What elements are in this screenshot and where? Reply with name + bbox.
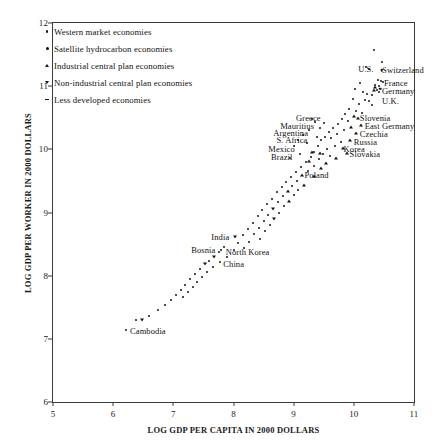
scatter-point xyxy=(278,212,280,214)
scatter-point xyxy=(218,251,220,253)
scatter-point xyxy=(318,152,322,155)
scatter-point xyxy=(380,80,382,82)
scatter-point xyxy=(317,145,319,147)
scatter-point xyxy=(199,268,201,270)
scatter-point xyxy=(283,205,285,207)
scatter-point xyxy=(310,150,314,153)
scatter-point xyxy=(323,122,325,124)
scatter-point xyxy=(348,108,350,110)
scatter-point xyxy=(352,115,356,118)
scatter-point xyxy=(180,289,182,291)
scatter-point xyxy=(285,181,287,183)
point-label: Poland xyxy=(304,170,328,179)
scatter-point xyxy=(334,145,336,147)
scatter-point xyxy=(297,189,299,191)
scatter-point xyxy=(267,214,269,216)
scatter-point xyxy=(330,137,332,139)
scatter-point xyxy=(237,242,239,244)
y-axis-title: LOG GDP PER WORKER IN 2000 DOLLARS xyxy=(23,78,33,328)
scatter-point xyxy=(313,151,315,153)
scatter-point xyxy=(337,123,339,125)
scatter-point xyxy=(344,113,346,115)
legend-item: Western market economies xyxy=(40,23,270,40)
scatter-point xyxy=(261,209,263,211)
scatter-point xyxy=(259,238,261,240)
chart-root: LOG GDP PER WORKER IN 2000 DOLLARS U.S.S… xyxy=(0,0,436,447)
scatter-point xyxy=(125,329,127,331)
scatter-point xyxy=(272,217,276,220)
scatter-point xyxy=(300,166,302,168)
scatter-point xyxy=(212,266,214,268)
scatter-point xyxy=(366,93,368,95)
scatter-point xyxy=(364,99,366,101)
scatter-point xyxy=(320,139,322,141)
scatter-point xyxy=(248,241,250,243)
x-axis-tick-mark xyxy=(233,402,234,406)
scatter-point xyxy=(295,171,297,173)
scatter-point xyxy=(343,129,345,131)
scatter-point xyxy=(192,286,194,288)
legend-item-label: Non-industrial central plan economies xyxy=(54,78,192,88)
legend-item: Satellite hydrocarbon economies xyxy=(40,40,270,57)
scatter-point xyxy=(376,89,378,91)
scatter-point xyxy=(373,86,377,89)
scatter-point xyxy=(354,88,356,90)
scatter-point xyxy=(220,249,222,251)
scatter-point xyxy=(328,131,330,133)
x-axis-tick-mark xyxy=(113,402,114,406)
legend-marker-icon xyxy=(40,42,54,56)
scatter-point xyxy=(290,176,292,178)
point-label: Slovakia xyxy=(350,150,381,159)
legend-item-label: Less developed economies xyxy=(54,95,151,105)
scatter-point xyxy=(252,222,254,224)
scatter-point xyxy=(332,127,334,129)
legend: Western market economiesSatellite hydroc… xyxy=(40,23,270,108)
point-label: Switzerland xyxy=(382,66,424,75)
scatter-point xyxy=(359,82,361,84)
scatter-point xyxy=(203,263,207,266)
scatter-point xyxy=(263,220,265,222)
x-axis-tick-mark xyxy=(353,402,354,406)
scatter-point xyxy=(219,261,221,263)
scatter-point xyxy=(305,161,307,163)
y-axis-tick-mark xyxy=(48,212,53,213)
scatter-point xyxy=(277,201,279,203)
scatter-point xyxy=(348,139,352,142)
point-label: North Korea xyxy=(226,248,270,257)
point-label: India xyxy=(211,232,229,241)
scatter-point xyxy=(182,296,184,298)
scatter-point xyxy=(187,291,189,293)
point-label: China xyxy=(223,260,244,269)
y-axis-tick-mark xyxy=(48,275,53,276)
legend-item-label: Satellite hydrocarbon economies xyxy=(54,44,172,54)
scatter-point xyxy=(302,183,306,186)
scatter-point xyxy=(242,234,244,236)
scatter-point xyxy=(281,186,283,188)
scatter-point xyxy=(212,255,216,258)
scatter-point xyxy=(140,318,144,321)
scatter-point xyxy=(372,88,376,91)
scatter-point xyxy=(299,153,301,155)
legend-marker-icon xyxy=(40,93,54,107)
scatter-point xyxy=(286,190,290,193)
scatter-point xyxy=(341,118,343,120)
scatter-point xyxy=(359,124,363,127)
scatter-point xyxy=(310,156,312,158)
scatter-point xyxy=(194,273,196,275)
legend-marker-icon xyxy=(40,59,54,73)
scatter-point xyxy=(257,215,259,217)
scatter-point xyxy=(135,319,137,321)
scatter-point xyxy=(324,162,328,165)
x-axis-tick-mark xyxy=(414,402,415,406)
point-label: S. Africa xyxy=(276,136,307,145)
scatter-point xyxy=(170,299,172,301)
point-label: Brazil xyxy=(271,153,292,162)
scatter-point xyxy=(358,103,360,105)
scatter-point xyxy=(355,110,357,112)
scatter-point xyxy=(276,191,278,193)
y-axis-tick-mark xyxy=(48,149,53,150)
scatter-point xyxy=(354,131,358,134)
point-label: Bosnia xyxy=(191,246,215,255)
scatter-point xyxy=(291,185,293,187)
scatter-point xyxy=(326,148,328,150)
